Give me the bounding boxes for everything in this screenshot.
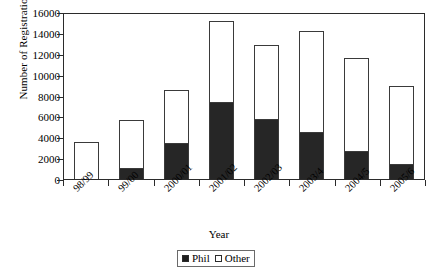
y-axis-tick-label: 12000 [33, 50, 61, 60]
legend-label-other: Other [225, 252, 250, 264]
bar-slot [379, 14, 424, 179]
bar-slot [109, 14, 154, 179]
bar-slot [199, 14, 244, 179]
y-axis-tick [57, 138, 63, 139]
x-axis-tick [425, 180, 426, 186]
y-axis-tick [57, 76, 63, 77]
y-axis-tick [57, 13, 63, 14]
bar-2004-5 [344, 58, 369, 179]
y-axis-tick [57, 97, 63, 98]
y-axis-tick [57, 159, 63, 160]
bar-slot [154, 14, 199, 179]
bar-2003-4 [299, 31, 324, 179]
legend-item-phil: Phil [182, 252, 210, 264]
bar-group [64, 14, 424, 179]
x-axis-title: Year [0, 228, 438, 240]
bar-slot [64, 14, 109, 179]
bar-segment-other [165, 91, 188, 143]
y-axis-tick [57, 180, 63, 181]
bar-segment-other [210, 22, 233, 102]
y-axis-tick-label: 10000 [33, 71, 61, 81]
y-axis-tick [57, 34, 63, 35]
bar-2005-6 [389, 86, 414, 179]
bar-segment-other [120, 121, 143, 168]
bar-segment-other [300, 32, 323, 133]
y-axis-tick-labels: 0200040006000800010000120001400016000 [12, 0, 60, 200]
bar-2001-02 [209, 21, 234, 179]
legend-item-other: Other [215, 252, 250, 264]
plot-area [63, 13, 425, 180]
bar-slot [289, 14, 334, 179]
bar-slot [244, 14, 289, 179]
x-axis-tick-labels: 98/9999/002000/012001/022002/032003/4200… [63, 186, 425, 226]
empty-square-icon [215, 255, 222, 262]
y-axis-tick [57, 55, 63, 56]
bar-segment-other [390, 87, 413, 163]
chart-legend: Phil Other [177, 250, 255, 267]
bar-segment-other [345, 59, 368, 151]
bar-segment-other [255, 46, 278, 119]
bar-chart: Number of Registrations 0200040006000800… [0, 0, 438, 274]
legend-label-phil: Phil [192, 252, 210, 264]
y-axis-tick-label: 16000 [33, 8, 61, 18]
bar-2002-03 [254, 45, 279, 179]
y-axis-tick [57, 117, 63, 118]
y-axis-tick-label: 14000 [33, 29, 61, 39]
bar-slot [334, 14, 379, 179]
filled-square-icon [182, 255, 189, 262]
